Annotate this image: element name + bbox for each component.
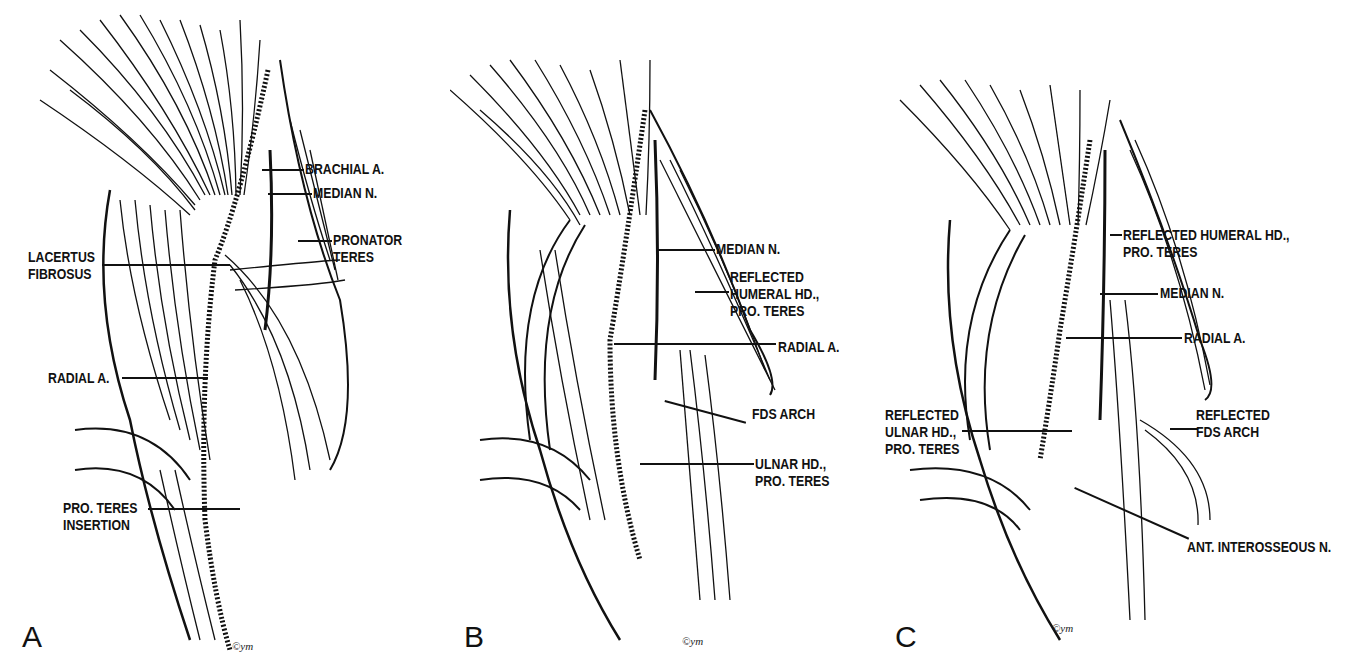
label-pronator-teres: PRONATOR TERES — [333, 231, 402, 265]
leader-line — [657, 249, 715, 251]
label-ulnar-head: ULNAR HD., PRO. TERES — [755, 455, 830, 489]
artist-signature: ©ym — [1052, 622, 1073, 634]
label-reflected-humeral-head: REFLECTED HUMERAL HD., PRO. TERES — [1123, 226, 1290, 260]
label-pro-teres-insertion: PRO. TERES INSERTION — [63, 499, 138, 533]
leader-line — [148, 508, 240, 510]
leader-line — [268, 193, 312, 195]
panel-letter-c: C — [895, 620, 917, 654]
label-reflected-fds-arch: REFLECTED FDS ARCH — [1196, 406, 1270, 440]
label-fds-arch: FDS ARCH — [752, 405, 815, 422]
leader-line — [1170, 428, 1198, 430]
forearm-illustration-b — [450, 0, 880, 670]
leader-line — [1100, 293, 1158, 295]
label-radial-artery: RADIAL A. — [48, 369, 110, 386]
leader-line — [122, 377, 208, 379]
leader-line — [695, 291, 729, 293]
label-median-nerve: MEDIAN N. — [716, 240, 780, 257]
label-reflected-humeral-head: REFLECTED HUMERAL HD., PRO. TERES — [730, 268, 819, 319]
leader-line — [262, 169, 304, 171]
label-reflected-ulnar-head: REFLECTED ULNAR HD., PRO. TERES — [885, 406, 960, 457]
leader-line — [298, 240, 332, 242]
label-lacertus-fibrosus: LACERTUS FIBROSUS — [28, 248, 95, 282]
artist-signature: ©ym — [682, 635, 703, 647]
label-radial-artery: RADIAL A. — [1184, 329, 1246, 346]
leader-line — [962, 430, 1072, 432]
label-median-nerve: MEDIAN N. — [1160, 284, 1224, 301]
label-brachial-artery: BRACHIAL A. — [305, 160, 384, 177]
leader-line — [614, 343, 776, 345]
panel-c: REFLECTED HUMERAL HD., PRO. TERES MEDIAN… — [880, 0, 1358, 670]
leader-line — [640, 463, 754, 465]
label-anterior-interosseous-nerve: ANT. INTEROSSEOUS N. — [1187, 538, 1331, 555]
panel-b: MEDIAN N. REFLECTED HUMERAL HD., PRO. TE… — [450, 0, 880, 670]
label-radial-artery: RADIAL A. — [778, 338, 840, 355]
panel-letter-b: B — [464, 620, 484, 654]
artist-signature: ©ym — [232, 640, 253, 652]
leader-line — [1066, 337, 1182, 339]
forearm-illustration-c — [880, 0, 1358, 670]
panel-letter-a: A — [22, 620, 42, 654]
leader-line — [1110, 234, 1122, 236]
panel-a: BRACHIAL A. MEDIAN N. PRONATOR TERES LAC… — [0, 0, 450, 670]
forearm-illustration-a — [0, 0, 450, 670]
label-median-nerve: MEDIAN N. — [313, 184, 377, 201]
leader-line — [102, 264, 230, 266]
